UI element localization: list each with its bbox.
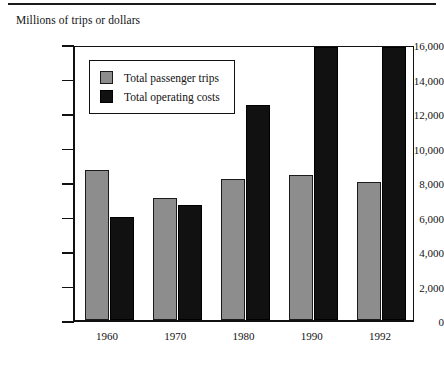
bar-1990-trips	[289, 175, 313, 320]
x-axis-label-1980: 1980	[233, 330, 255, 342]
x-axis-label-1960: 1960	[96, 330, 118, 342]
chart-figure: Millions of trips or dollars 02,0004,000…	[0, 0, 444, 366]
x-axis-label-1970: 1970	[164, 330, 186, 342]
bar-1960-trips	[85, 170, 109, 320]
chart-legend: Total passenger tripsTotal operating cos…	[89, 60, 235, 114]
bar-1992-trips	[357, 182, 381, 320]
bar-1970-costs	[178, 205, 202, 320]
gray-swatch-icon	[100, 71, 113, 84]
x-axis-label-1992: 1992	[369, 330, 391, 342]
page-top-rule	[8, 3, 436, 5]
y-axis-title: Millions of trips or dollars	[16, 14, 140, 26]
legend-item: Total operating costs	[100, 87, 220, 106]
bar-1980-costs	[246, 105, 270, 320]
x-axis-label-1990: 1990	[301, 330, 323, 342]
bar-1960-costs	[110, 217, 134, 321]
legend-item-label: Total operating costs	[124, 91, 220, 103]
bar-1990-costs	[314, 47, 338, 320]
legend-item: Total passenger trips	[100, 68, 220, 87]
black-swatch-icon	[100, 90, 113, 103]
bar-1980-trips	[221, 179, 245, 320]
bar-1992-costs	[382, 47, 406, 320]
legend-item-label: Total passenger trips	[124, 72, 219, 84]
bar-1970-trips	[153, 198, 177, 320]
